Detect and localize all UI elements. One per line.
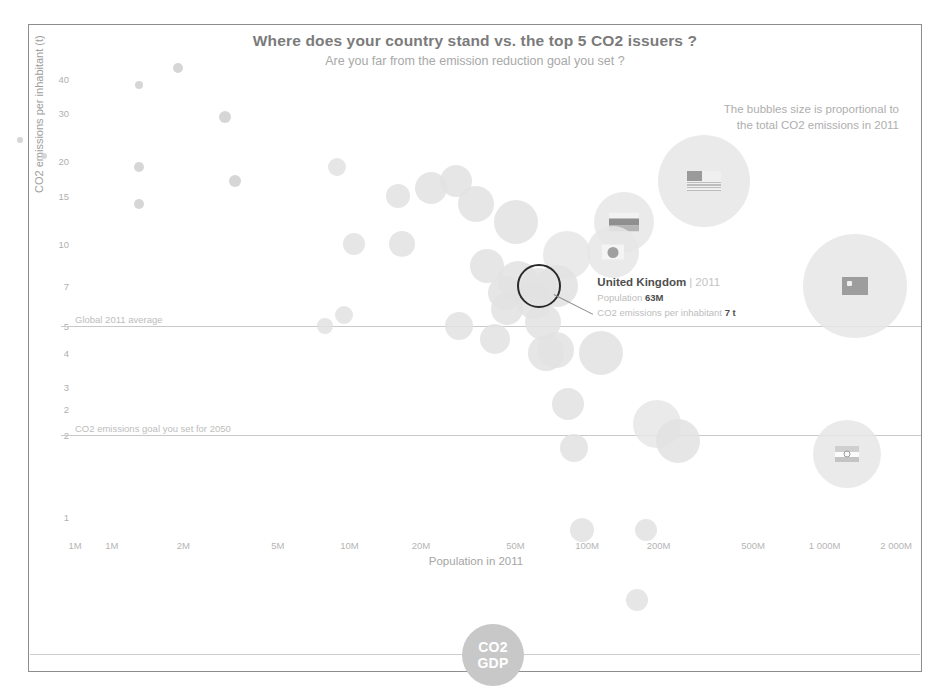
x-axis-tick: 1 000M <box>809 540 841 551</box>
y-axis-tick: 40 <box>58 74 69 85</box>
tooltip-emissions-row: CO2 emissions per inhabitant 7 t <box>597 306 735 319</box>
y-axis-tick: 4 <box>64 347 69 358</box>
bubble-spain[interactable] <box>491 293 523 325</box>
x-axis-tick: 2 000M <box>880 540 912 551</box>
bubble-sweden[interactable] <box>335 306 353 324</box>
tooltip-population-label: Population <box>597 292 642 303</box>
bubble-australia[interactable] <box>415 172 447 204</box>
y-axis-title-text: CO2 emissions per inhabitant (t) <box>33 0 45 193</box>
bubble-malaysia[interactable] <box>445 312 473 340</box>
bubble-kuwait[interactable] <box>219 111 231 123</box>
tooltip-year: | 2011 <box>689 276 720 288</box>
bubble-bahrain[interactable] <box>134 162 144 172</box>
plot-area: 403020151075432211M1M2M5M10M20M50M100M20… <box>75 65 915 530</box>
x-axis-tick: 5M <box>271 540 284 551</box>
x-axis-tick: 2M <box>177 540 190 551</box>
co2-gdp-logo: CO2 GDP <box>462 624 524 686</box>
x-axis-tick: 20M <box>412 540 430 551</box>
tooltip-title: United Kingdom| 2011 <box>597 276 735 289</box>
reference-line-label: Global 2011 average <box>75 314 163 325</box>
flag-india <box>835 446 859 462</box>
bubble-kazakhstan[interactable] <box>386 184 410 208</box>
flag-japan <box>602 245 624 260</box>
bubble-south-korea[interactable] <box>494 200 538 244</box>
bubble-argentina[interactable] <box>480 324 510 354</box>
page-title: Where does your country stand vs. the to… <box>29 31 921 51</box>
bubble-trinidad[interactable] <box>135 81 143 89</box>
bubble-qatar[interactable] <box>173 63 183 73</box>
reference-line-label: CO2 emissions goal you set for 2050 <box>75 423 231 434</box>
bubble-canada[interactable] <box>458 186 494 222</box>
bubble-czech-rep-[interactable] <box>343 233 365 255</box>
bubble-uae[interactable] <box>328 158 346 176</box>
bubble-egypt[interactable] <box>552 388 584 420</box>
bubble-philippines[interactable] <box>570 518 594 542</box>
tooltip-population-value: 63M <box>645 292 663 303</box>
x-axis-tick: 1M <box>68 540 81 551</box>
bubble-oman[interactable] <box>229 175 241 187</box>
y-axis-tick: 10 <box>58 238 69 249</box>
y-axis-tick: 20 <box>58 156 69 167</box>
logo-line1: CO2 <box>478 639 508 655</box>
y-axis-title: CO2 emissions per inhabitant (t) <box>33 0 45 193</box>
y-axis-tick: 15 <box>58 190 69 201</box>
flag-united-states <box>687 171 721 191</box>
bubble-luxembourg[interactable] <box>41 153 47 159</box>
x-axis-tick: 10M <box>340 540 358 551</box>
y-axis-tick: 3 <box>64 381 69 392</box>
x-axis-tick: 200M <box>647 540 671 551</box>
y-axis-tick: 1 <box>64 512 69 523</box>
bubble-pakistan[interactable] <box>635 519 657 541</box>
bubble-mexico[interactable] <box>579 331 623 375</box>
tooltip-emissions-label: CO2 emissions per inhabitant <box>597 307 722 318</box>
y-axis-tick: 30 <box>58 108 69 119</box>
x-axis-title: Population in 2011 <box>29 555 923 567</box>
x-axis-tick: 500M <box>741 540 765 551</box>
logo-line2: GDP <box>477 655 508 671</box>
bubble-turkey[interactable] <box>538 332 574 368</box>
y-axis-tick: 7 <box>64 281 69 292</box>
tooltip-united-kingdom: United Kingdom| 2011Population 63MCO2 em… <box>597 276 735 319</box>
bubble-nigeria[interactable] <box>626 589 648 611</box>
tooltip-country: United Kingdom <box>597 276 686 288</box>
x-axis-tick: 50M <box>506 540 524 551</box>
bubble-vietnam[interactable] <box>560 434 588 462</box>
chart-frame: Where does your country stand vs. the to… <box>28 24 922 672</box>
bubble-brunei[interactable] <box>17 137 23 143</box>
flag-china <box>842 277 868 295</box>
bubble-switzerland[interactable] <box>317 318 333 334</box>
bubble-netherlands[interactable] <box>389 231 415 257</box>
x-axis-tick: 1M <box>105 540 118 551</box>
highlight-ring-united-kingdom[interactable] <box>517 264 561 308</box>
bubble-estonia[interactable] <box>134 199 144 209</box>
tooltip-population-row: Population 63M <box>597 291 735 304</box>
bubble-indonesia[interactable] <box>656 419 700 463</box>
y-axis-tick: 2 <box>64 403 69 414</box>
tooltip-emissions-value: 7 t <box>725 307 736 318</box>
reference-line <box>61 435 921 436</box>
